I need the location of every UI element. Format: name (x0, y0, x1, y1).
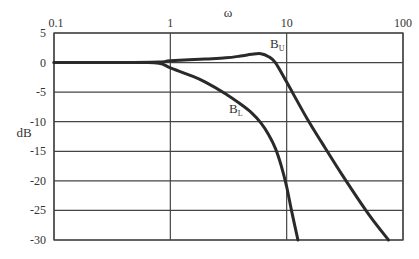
y-axis-ticks: 50-5-10-15-20-25-30 (30, 26, 46, 247)
y-tick-label: 5 (40, 26, 46, 40)
y-axis-label: dB (16, 125, 32, 140)
label-b-u: BU (270, 36, 285, 53)
x-axis-label: ω (224, 5, 233, 20)
curves (54, 54, 388, 240)
y-tick-label: -30 (30, 233, 46, 247)
x-tick-label: 100 (394, 16, 412, 30)
x-tick-label: 1 (167, 16, 173, 30)
y-tick-label: 0 (40, 56, 46, 70)
y-tick-label: -20 (30, 174, 46, 188)
bode-plot: 0.1110100 50-5-10-15-20-25-30 ω dB BU BL (0, 0, 419, 259)
curve-b-u (54, 54, 388, 240)
y-tick-label: -10 (30, 115, 46, 129)
y-tick-label: -25 (30, 203, 46, 217)
x-tick-label: 10 (281, 16, 293, 30)
y-tick-label: -5 (36, 85, 46, 99)
series-labels: BU BL (229, 36, 285, 118)
x-tick-label: 0.1 (49, 16, 64, 30)
y-tick-label: -15 (30, 144, 46, 158)
